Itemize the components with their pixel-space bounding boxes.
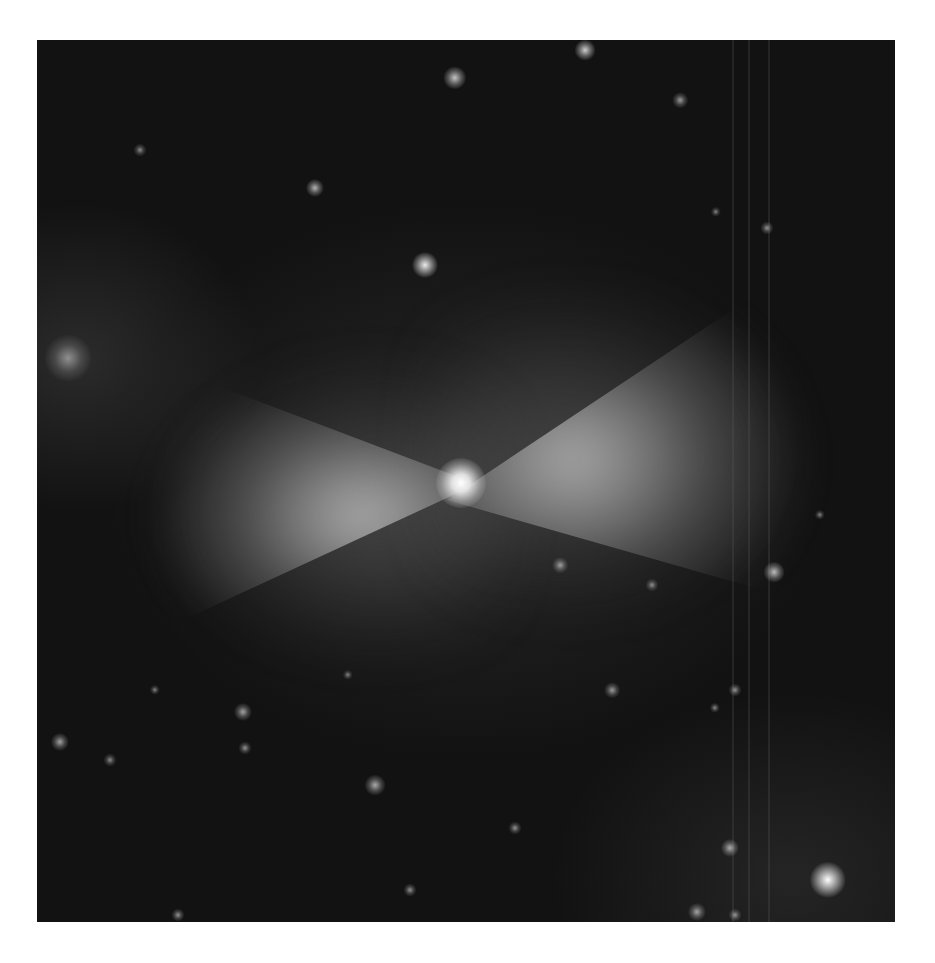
- star: [412, 252, 438, 278]
- star: [45, 335, 92, 382]
- star: [604, 682, 620, 698]
- star: [552, 557, 568, 573]
- detector-stripe: [748, 40, 750, 922]
- nebula-image: [37, 40, 895, 922]
- star: [172, 909, 185, 922]
- star: [761, 222, 774, 235]
- star: [729, 909, 742, 922]
- star: [509, 822, 522, 835]
- detector-stripe: [768, 40, 770, 922]
- star: [646, 579, 659, 592]
- nebula-core: [436, 458, 486, 508]
- star: [575, 40, 596, 60]
- detector-stripe: [732, 40, 734, 922]
- star: [729, 684, 742, 697]
- star: [104, 754, 117, 767]
- star: [404, 884, 417, 897]
- star: [134, 144, 147, 157]
- star: [239, 742, 252, 755]
- star: [764, 562, 785, 583]
- star: [672, 92, 688, 108]
- star: [365, 775, 386, 796]
